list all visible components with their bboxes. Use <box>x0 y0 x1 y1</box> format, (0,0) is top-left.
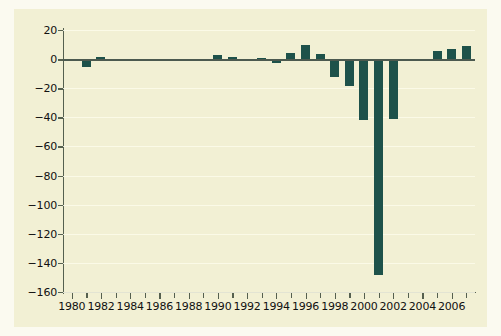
x-tick-label: 2000 <box>350 300 377 313</box>
x-tick <box>437 293 438 298</box>
bar-2002 <box>389 59 398 119</box>
gridline <box>63 176 475 177</box>
x-tick <box>335 293 336 299</box>
y-tick-label: 20 <box>43 24 57 37</box>
x-tick <box>116 293 117 298</box>
x-tick <box>320 293 321 298</box>
gridline <box>63 234 475 235</box>
y-tick-label: −80 <box>34 169 57 182</box>
y-tick-label: −160 <box>28 286 57 299</box>
x-tick <box>422 293 423 299</box>
x-tick <box>232 293 233 298</box>
x-tick <box>276 293 277 299</box>
gridline <box>63 88 475 89</box>
bar-2005 <box>433 51 442 59</box>
x-tick <box>86 293 87 298</box>
x-tick-label: 1980 <box>58 300 85 313</box>
x-tick-label: 1990 <box>204 300 231 313</box>
x-tick <box>218 293 219 299</box>
chart-figure: 200−20−40−60−80−100−120−140−160 19801982… <box>0 0 501 336</box>
x-tick <box>101 293 102 299</box>
y-tick-label: −140 <box>28 256 57 269</box>
x-tick-label: 2004 <box>409 300 436 313</box>
y-tick-label: 0 <box>50 53 57 66</box>
x-tick <box>349 293 350 298</box>
x-tick <box>466 293 467 298</box>
x-tick-label: 2006 <box>438 300 465 313</box>
x-tick-label: 1994 <box>263 300 290 313</box>
x-tick <box>72 293 73 299</box>
bar-1999 <box>345 59 354 86</box>
y-tick-label: −60 <box>34 140 57 153</box>
x-tick <box>379 293 380 298</box>
x-tick <box>189 293 190 299</box>
gridline <box>63 30 475 31</box>
x-tick <box>306 293 307 299</box>
gridline <box>63 263 475 264</box>
x-tick <box>203 293 204 298</box>
x-tick-label: 1982 <box>87 300 114 313</box>
x-tick-label: 1988 <box>175 300 202 313</box>
x-tick-label: 1992 <box>233 300 260 313</box>
x-tick <box>174 293 175 298</box>
x-tick <box>408 293 409 298</box>
gridline <box>63 205 475 206</box>
x-tick <box>247 293 248 299</box>
x-tick-label: 1998 <box>321 300 348 313</box>
x-tick-label: 1986 <box>146 300 173 313</box>
x-tick <box>364 293 365 299</box>
x-tick <box>262 293 263 298</box>
x-tick-label: 2002 <box>380 300 407 313</box>
zero-baseline <box>63 59 475 60</box>
x-tick <box>130 293 131 299</box>
bar-2001 <box>374 59 383 274</box>
plot-area <box>63 30 475 292</box>
bar-2000 <box>359 59 368 120</box>
bar-2006 <box>447 49 456 59</box>
x-tick-label: 1984 <box>117 300 144 313</box>
x-tick <box>291 293 292 298</box>
x-tick-label: 1996 <box>292 300 319 313</box>
y-tick-label: −100 <box>28 198 57 211</box>
x-tick <box>145 293 146 298</box>
bar-2007 <box>462 46 471 59</box>
bar-1998 <box>330 59 339 76</box>
x-tick <box>159 293 160 299</box>
bar-1996 <box>301 45 310 59</box>
y-tick-label: −40 <box>34 111 57 124</box>
gridline <box>63 146 475 147</box>
gridline <box>63 117 475 118</box>
x-tick <box>393 293 394 299</box>
x-tick <box>452 293 453 299</box>
y-tick-label: −120 <box>28 227 57 240</box>
y-axis-labels: 200−20−40−60−80−100−120−140−160 <box>0 0 57 336</box>
y-tick-label: −20 <box>34 82 57 95</box>
x-axis-labels: 1980198219841986198819901992199419961998… <box>63 293 476 333</box>
